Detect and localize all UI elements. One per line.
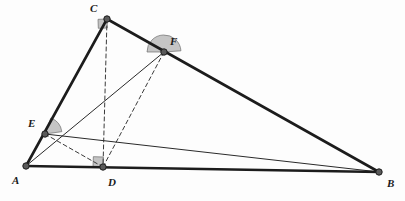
vertex-dot-D (100, 164, 106, 170)
segment-ED (45, 134, 103, 167)
vertex-label-A: A (12, 175, 19, 186)
segment-CB (107, 19, 379, 172)
segment-CD (103, 19, 107, 167)
geometry-figure: A B C D E F (0, 0, 405, 201)
vertex-label-E: E (28, 118, 35, 129)
vertex-dot-E (42, 131, 48, 137)
vertex-dots-group (23, 16, 382, 175)
vertex-label-B: B (387, 178, 394, 189)
vertex-dot-B (376, 169, 382, 175)
vertex-dot-A (23, 163, 29, 169)
geometry-canvas (0, 0, 405, 201)
vertex-dot-F (161, 49, 167, 55)
segment-DF (103, 52, 164, 167)
segment-AF (26, 52, 164, 166)
vertex-label-C: C (90, 3, 97, 14)
triangle-sides-group (26, 19, 379, 172)
vertex-label-F: F (170, 36, 177, 47)
segment-AB (26, 166, 379, 172)
vertex-dot-C (104, 16, 110, 22)
segment-AC (26, 19, 107, 166)
vertex-label-D: D (108, 177, 116, 188)
